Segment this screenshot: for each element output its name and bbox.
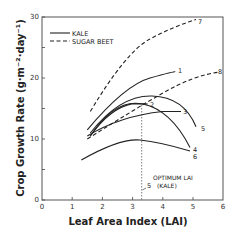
y-tick-10: 10	[30, 135, 39, 143]
curve-label-3: 3	[183, 108, 187, 116]
annotation-pointer: 5	[147, 182, 151, 190]
y-axis-tick-labels: 0 10 20 30	[30, 13, 39, 204]
x-axis-title: Leaf Area Index (LAI)	[68, 216, 187, 227]
y-tick-0: 0	[35, 196, 39, 204]
x-tick-4: 4	[161, 203, 166, 211]
y-tick-20: 20	[30, 74, 39, 82]
curve-6	[81, 140, 190, 160]
annotation-line2: (KALE)	[157, 182, 177, 189]
x-tick-5: 5	[191, 203, 195, 211]
annotation-line1: OPTIMUM LAI	[153, 174, 193, 181]
chart-canvas: 0 10 20 30 0 1 2 3 4 5 6 Leaf Area Index…	[0, 0, 238, 236]
curve-label-8: 8	[218, 68, 222, 76]
x-tick-6: 6	[221, 203, 226, 211]
curve-label-5: 5	[201, 125, 205, 133]
x-tick-2: 2	[100, 203, 104, 211]
y-axis-title: Crop Growth Rate (g·m⁻²·day⁻¹)	[15, 19, 26, 197]
legend-kale-label: KALE	[72, 30, 88, 38]
x-tick-1: 1	[70, 203, 74, 211]
curve-7	[90, 20, 196, 112]
optimum-lai-annotation: OPTIMUM LAI (KALE) 5	[143, 174, 194, 190]
x-tick-3: 3	[130, 203, 134, 211]
curve-label-2: 2	[150, 101, 154, 109]
x-tick-0: 0	[40, 203, 44, 211]
annotation-arrow	[143, 188, 147, 190]
plot-frame	[42, 17, 223, 200]
x-axis-tick-labels: 0 1 2 3 4 5 6	[40, 203, 226, 211]
curve-3	[87, 112, 181, 137]
y-tick-30: 30	[30, 13, 39, 21]
curve-label-7: 7	[198, 18, 202, 26]
curve-label-6: 6	[193, 153, 197, 161]
legend-sugar-beet-label: SUGAR BEET	[72, 38, 114, 46]
legend: KALE SUGAR BEET	[50, 30, 114, 46]
curve-label-1: 1	[178, 67, 182, 75]
